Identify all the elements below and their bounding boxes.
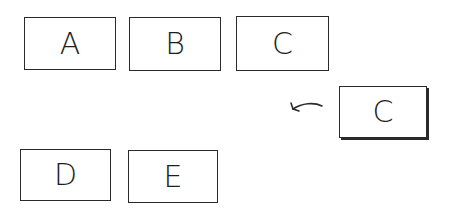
card-label: B — [165, 29, 185, 59]
card-label: C — [373, 97, 394, 127]
card-label: E — [164, 162, 183, 192]
card-e: E — [128, 150, 218, 203]
arrow-left-icon — [288, 100, 328, 120]
moving-card-c: C — [339, 86, 427, 138]
card-d: D — [20, 149, 111, 201]
card-a: A — [24, 17, 116, 70]
card-b: B — [129, 17, 221, 71]
card-label: D — [54, 160, 77, 190]
card-label: A — [60, 29, 81, 59]
card-c: C — [236, 16, 329, 71]
card-label: C — [272, 29, 293, 59]
